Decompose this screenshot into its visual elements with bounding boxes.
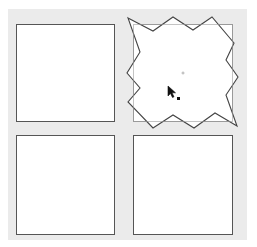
grid-cell-bottom-left[interactable] xyxy=(16,135,115,235)
grid-cell-top-right[interactable] xyxy=(133,24,233,122)
editor-stage xyxy=(0,0,257,247)
grid-cell-bottom-right[interactable] xyxy=(133,135,233,235)
grid-cell-top-left[interactable] xyxy=(16,24,115,122)
